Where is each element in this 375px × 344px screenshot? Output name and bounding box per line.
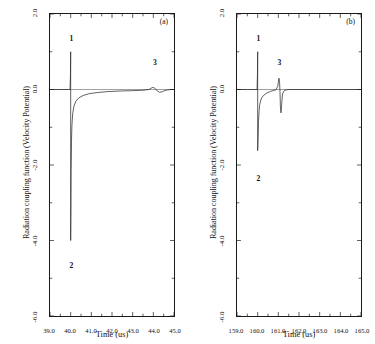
y-tick-label: 0.0 — [30, 76, 40, 102]
y-tick--2.0-b: -2.0 — [209, 160, 235, 170]
annotation-2-a: 2 — [69, 261, 73, 270]
y-tick-0.0-a: 0.0 — [22, 84, 48, 94]
x-axis-label-b: Time (us) — [236, 330, 362, 339]
x-axis-label-a: Time (us) — [49, 330, 175, 339]
y-tick--2.0-a: -2.0 — [22, 160, 48, 170]
annotation-1-b: 1 — [256, 34, 260, 43]
y-tick-label: 2.0 — [30, 0, 40, 26]
y-tick--4.0-a: -4.0 — [22, 236, 48, 246]
y-tick--4.0-b: -4.0 — [209, 236, 235, 246]
y-tick-label: -4.0 — [217, 228, 227, 254]
y-tick-0.0-b: 0.0 — [209, 84, 235, 94]
annotation-3-a: 3 — [153, 58, 157, 67]
figure-two-panel-chart: Radiation coupling function (Velocity Po… — [0, 0, 375, 344]
annotation-1-a: 1 — [69, 34, 73, 43]
x-tick-45.0-a: 45.0 — [160, 319, 190, 329]
y-tick-label: -4.0 — [30, 228, 40, 254]
x-tick-165.0-b: 165.0 — [347, 319, 375, 329]
y-tick-2.0-a: 2.0 — [22, 8, 48, 18]
annotation-2-b: 2 — [256, 174, 260, 183]
panel-b: Radiation coupling function (Velocity Po… — [187, 0, 375, 344]
plot-area-b: (b) 123 — [236, 13, 362, 317]
panel-a: Radiation coupling function (Velocity Po… — [0, 0, 188, 344]
y-tick-label: -2.0 — [217, 152, 227, 178]
y-tick-label: 2.0 — [217, 0, 227, 26]
plot-svg-b — [237, 14, 361, 316]
y-tick-2.0-b: 2.0 — [209, 8, 235, 18]
y-tick-label: 0.0 — [217, 76, 227, 102]
y-tick-label: -2.0 — [30, 152, 40, 178]
annotation-3-b: 3 — [277, 58, 281, 67]
plot-area-a: (a) 123 — [49, 13, 175, 317]
